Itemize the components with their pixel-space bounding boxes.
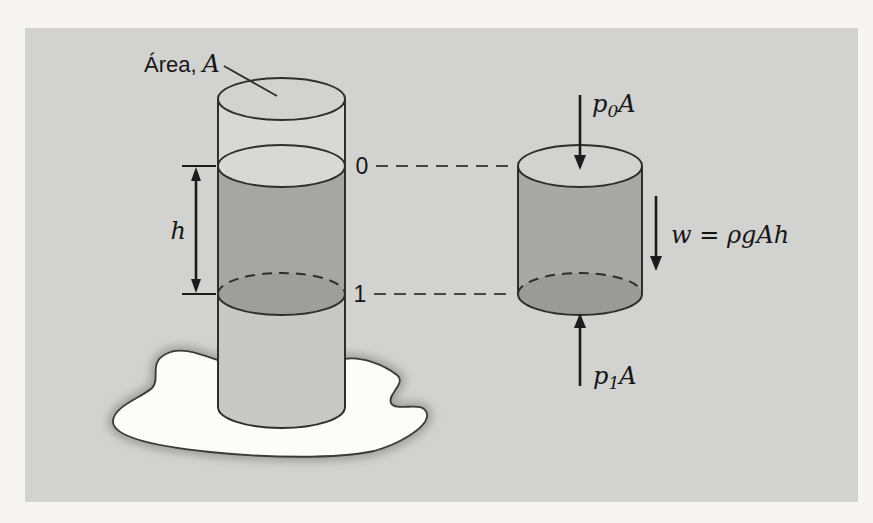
figure-panel: Área,A h 0 1 p0A w = ρgAh p1A — [0, 0, 873, 523]
level-1-label: 1 — [354, 281, 367, 307]
pressure-diagram: Área,A h 0 1 p0A w = ρgAh p1A — [0, 0, 873, 523]
level-0-label: 0 — [356, 153, 369, 179]
area-label: Área,A — [144, 50, 220, 78]
weight-label: w = ρgAh — [671, 221, 789, 249]
height-label: h — [171, 217, 186, 245]
